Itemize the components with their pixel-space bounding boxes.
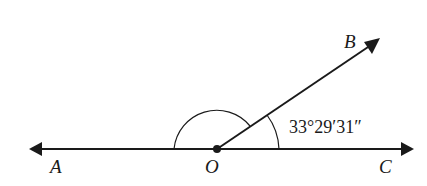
angle-diagram: A O C B 33°29′31″ xyxy=(0,0,427,186)
arrowhead-b-icon xyxy=(364,38,380,54)
label-a: A xyxy=(48,156,62,177)
angle-boc-label: 33°29′31″ xyxy=(289,117,362,137)
arrowhead-c-icon xyxy=(401,142,414,156)
point-o xyxy=(213,145,221,153)
arc-angle-boc xyxy=(267,115,279,149)
label-b: B xyxy=(344,31,356,52)
label-c: C xyxy=(379,156,392,177)
arrowhead-a-icon xyxy=(29,142,42,156)
arc-angle-aob xyxy=(174,110,250,149)
label-o: O xyxy=(205,156,219,177)
